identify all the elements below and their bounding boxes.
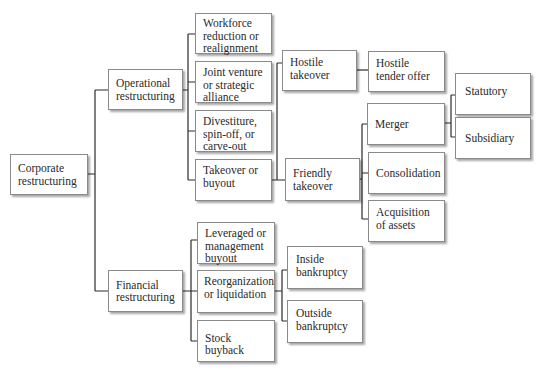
node-divestiture: Divestiture, spin-off, or carve-out xyxy=(195,110,272,152)
node-workforce-reduction: Workforce reduction or realignment xyxy=(195,13,272,54)
node-merger: Merger xyxy=(367,103,445,145)
node-financial-restructuring: Financial restructuring xyxy=(108,270,183,312)
node-reorganization: Reorganization or liquidation xyxy=(197,270,275,313)
node-takeover-or-buyout: Takeover or buyout xyxy=(195,159,272,201)
node-joint-venture: Joint venture or strategic alliance xyxy=(195,61,272,103)
node-inside-bankruptcy: Inside bankruptcy xyxy=(287,246,363,289)
node-friendly-takeover: Friendly takeover xyxy=(285,158,360,201)
node-subsidiary: Subsidiary xyxy=(455,117,531,159)
node-corporate-restructuring: Corporate restructuring xyxy=(10,154,88,195)
node-hostile-tender-offer: Hostile tender offer xyxy=(368,51,445,92)
node-leveraged-buyout: Leveraged or management buyout xyxy=(197,222,275,264)
node-operational-restructuring: Operational restructuring xyxy=(108,69,183,110)
node-stock-buyback: Stock buyback xyxy=(197,320,275,362)
node-statutory: Statutory xyxy=(455,73,531,115)
node-hostile-takeover: Hostile takeover xyxy=(282,50,357,91)
node-acquisition-of-assets: Acquisition of assets xyxy=(368,200,445,242)
node-consolidation: Consolidation xyxy=(368,152,445,194)
node-outside-bankruptcy: Outside bankruptcy xyxy=(287,300,363,343)
